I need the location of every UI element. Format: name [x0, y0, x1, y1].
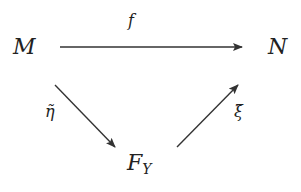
label-xi: ξ̃ [234, 104, 243, 120]
label-eta: η̃ [45, 104, 55, 120]
arrow-xi [177, 85, 238, 147]
node-m: M [13, 36, 36, 58]
arrow-eta [55, 85, 115, 147]
node-f-y-subscript: Y [142, 161, 151, 177]
node-n: N [268, 36, 287, 58]
node-f-y-base: F [127, 150, 142, 175]
label-f: f [128, 13, 134, 29]
node-f-y: FY [127, 152, 152, 176]
